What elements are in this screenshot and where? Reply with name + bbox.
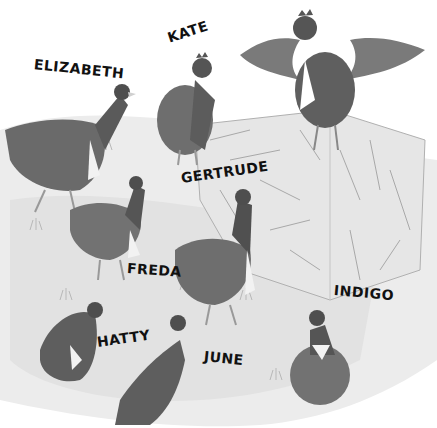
hen-illustration: ELIZABETH KATE GERTRUDE FREDA INDIGO HAT…	[0, 0, 437, 428]
